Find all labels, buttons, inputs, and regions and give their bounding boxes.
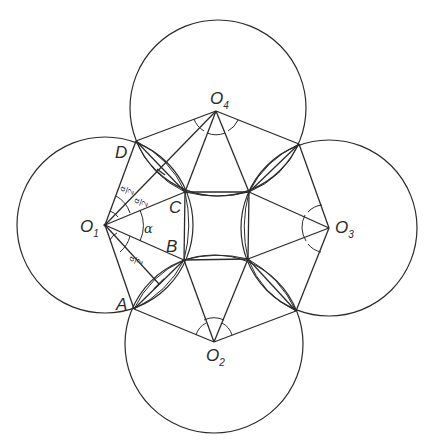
svg-text:2: 2 [135, 258, 146, 267]
label-o1: O1 [80, 217, 99, 239]
label-a: A [115, 295, 127, 314]
geometry-diagram: O1 O2 O3 O4 A B C D α α 2 α 2 α 2 [0, 0, 429, 448]
center-o1-dot [103, 223, 106, 226]
label-o2: O2 [206, 346, 225, 368]
label-o4: O4 [210, 89, 229, 111]
inner-square [184, 192, 249, 260]
label-o3: O3 [335, 218, 354, 240]
label-d: D [115, 143, 127, 162]
half-alpha-label-3: α 2 [126, 254, 145, 267]
circle-o4 [130, 20, 306, 196]
label-alpha: α [144, 221, 153, 236]
half-alpha-label-1: α 2 [117, 184, 136, 197]
label-c: C [169, 198, 182, 217]
label-b: B [166, 237, 177, 256]
half-alpha-label-2: α 2 [131, 196, 150, 209]
